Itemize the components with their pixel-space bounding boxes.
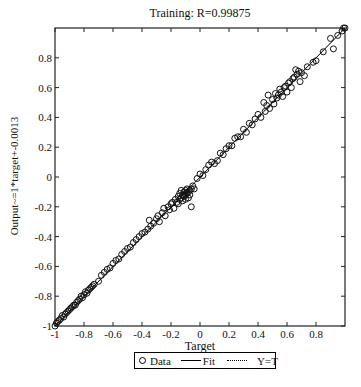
data-point: [188, 204, 194, 210]
y-tick-label: 0.4: [38, 111, 52, 123]
legend-data-label: Data: [150, 355, 171, 367]
data-point: [320, 49, 326, 55]
y-tick-label: -0.2: [35, 201, 52, 213]
solid-line-icon: [181, 360, 201, 361]
data-point: [297, 79, 303, 85]
y-tick-label: -0.6: [35, 260, 53, 272]
regression-figure: Training: R=0.99875 -1-0.8-0.6-0.4-0.200…: [0, 0, 361, 387]
data-point: [262, 108, 268, 114]
dotted-line-icon: [227, 360, 247, 361]
fit-line: [55, 28, 345, 326]
legend-item-fit: Fit: [175, 355, 215, 367]
y-axis-label: Output~=1*target+-0.0013: [8, 86, 20, 266]
data-point: [330, 46, 336, 52]
legend-fit-label: Fit: [203, 355, 215, 367]
y-tick-label: -0.4: [35, 231, 53, 243]
y-tick-label: 0.2: [38, 141, 52, 153]
circle-marker-icon: [139, 357, 146, 364]
plot-area: -1-0.8-0.6-0.4-0.200.20.40.60.8-1-0.8-0.…: [0, 0, 361, 387]
legend-item-yt: Y=T: [219, 355, 278, 367]
legend-yt-label: Y=T: [257, 355, 278, 367]
y-tick-label: 0.6: [38, 82, 52, 94]
y-tick-label: -1: [43, 320, 52, 332]
data-point: [146, 217, 152, 223]
legend: Data Fit Y=T: [134, 352, 276, 369]
y-tick-label: 0.8: [38, 52, 52, 64]
y-tick-label: -0.8: [35, 290, 53, 302]
legend-item-data: Data: [139, 355, 171, 367]
y-tick-label: 0: [47, 171, 53, 183]
